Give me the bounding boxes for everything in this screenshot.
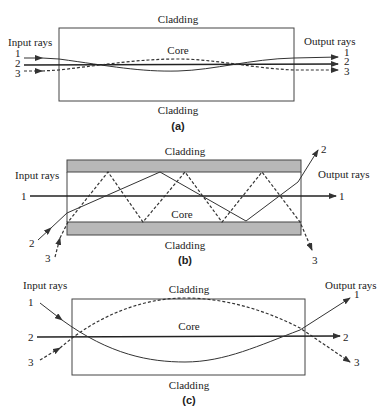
cladding-bottom-label: Cladding bbox=[158, 104, 199, 116]
ray-label-in-2: 2 bbox=[29, 237, 35, 249]
core-label: Core bbox=[178, 320, 200, 332]
ray-label-in-2: 2 bbox=[28, 331, 34, 343]
ray-label-out-2: 2 bbox=[321, 143, 327, 155]
input-rays-label: Input rays bbox=[15, 169, 59, 181]
panel-b: Cladding Cladding Core Input rays Output… bbox=[15, 143, 370, 266]
core-label: Core bbox=[171, 208, 193, 220]
caption-b: (b) bbox=[178, 254, 192, 266]
ray-label-out-3: 3 bbox=[312, 254, 318, 266]
panel-c: Cladding Cladding Core Input rays Output… bbox=[23, 279, 377, 406]
ray-2-axis bbox=[24, 64, 338, 65]
cladding-bottom-label: Cladding bbox=[165, 239, 206, 251]
cladding-top-label: Cladding bbox=[165, 145, 206, 157]
cladding-top-label: Cladding bbox=[158, 13, 199, 25]
ray-3-in bbox=[55, 238, 60, 257]
caption-a: (a) bbox=[171, 120, 185, 132]
ray-label-out-1: 1 bbox=[354, 288, 360, 300]
ray-label-out-1: 1 bbox=[339, 190, 345, 202]
cladding-top-band bbox=[67, 160, 301, 172]
ray-2-axis bbox=[37, 336, 340, 337]
ray-label-out-2: 2 bbox=[343, 331, 349, 343]
cladding-bottom-band bbox=[67, 222, 301, 235]
ray-label-in-3: 3 bbox=[45, 252, 51, 264]
output-rays-label: Output rays bbox=[318, 168, 370, 180]
input-rays-label: Input rays bbox=[23, 279, 67, 291]
panel-a: Cladding Cladding Core Input rays Output… bbox=[8, 13, 356, 132]
ray-label-out-3: 3 bbox=[354, 356, 360, 368]
ray-3-path bbox=[60, 298, 350, 362]
ray-label-in-1: 1 bbox=[28, 296, 34, 308]
ray-label-in-3: 3 bbox=[28, 356, 34, 368]
ray-label-in-3: 3 bbox=[15, 67, 21, 79]
caption-c: (c) bbox=[182, 394, 196, 406]
core-label: Core bbox=[167, 44, 189, 56]
cladding-top-label: Cladding bbox=[169, 283, 210, 295]
ray-label-in-1: 1 bbox=[21, 190, 27, 202]
ray-1-in bbox=[40, 303, 62, 320]
ray-3-in bbox=[40, 348, 60, 360]
fiber-ray-diagram: Cladding Cladding Core Input rays Output… bbox=[0, 0, 386, 418]
ray-2-in bbox=[38, 228, 51, 240]
cladding-bottom-label: Cladding bbox=[169, 379, 210, 391]
ray-label-out-3: 3 bbox=[344, 65, 350, 77]
output-rays-label: Output rays bbox=[325, 279, 377, 291]
ray-1-path bbox=[62, 298, 350, 362]
